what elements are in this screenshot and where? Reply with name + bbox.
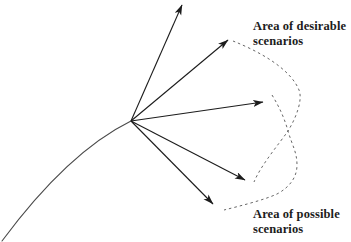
scenario-arrow-4 [131,121,245,180]
desirable-area-boundary-curve [233,41,300,182]
possible-area-label: Area of possible scenarios [253,207,340,237]
possible-area-label-line2: scenarios [253,222,340,237]
scenario-arrow-5 [131,121,213,204]
desirable-area-label: Area of desirable scenarios [253,19,346,49]
scenario-arrow-1 [131,5,182,121]
possible-area-boundary-curve [224,95,297,210]
possible-area-label-line1: Area of possible [253,207,340,222]
scenario-cone-diagram: Area of desirable scenarios Area of poss… [0,0,351,242]
desirable-area-label-line2: scenarios [253,34,346,49]
desirable-area-label-line1: Area of desirable [253,19,346,34]
trajectory-curve [2,121,131,241]
